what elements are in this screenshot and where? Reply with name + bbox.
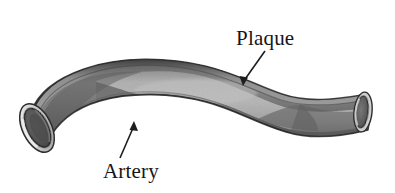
artery-leader-arrow xyxy=(120,121,138,158)
plaque-label: Plaque xyxy=(236,26,294,51)
artery-plaque-figure: Plaque Artery xyxy=(0,0,395,193)
plaque-leader-arrow xyxy=(240,51,266,86)
artery-illustration xyxy=(0,0,395,193)
artery-label: Artery xyxy=(103,159,159,184)
artery-wall xyxy=(31,58,370,150)
